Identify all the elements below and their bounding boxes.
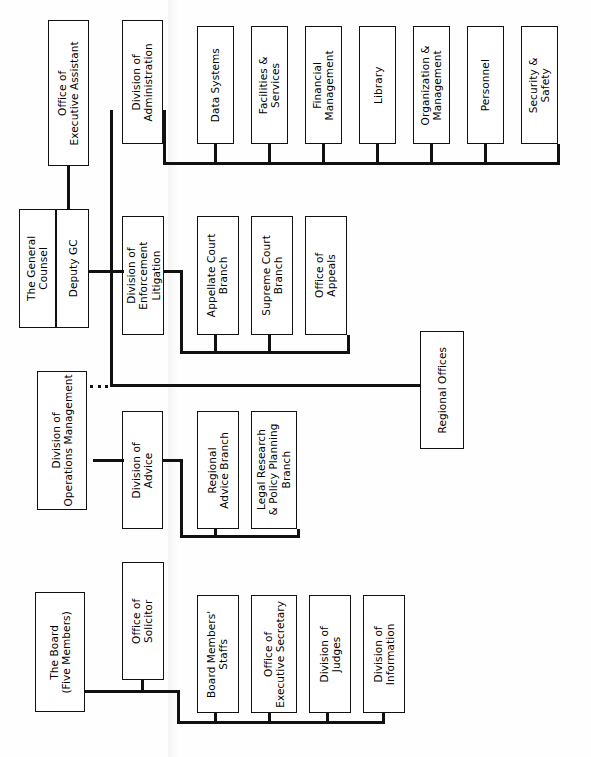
connector-gc-to-enforcement xyxy=(88,270,124,273)
connector-division-of-judges-stub xyxy=(326,713,329,724)
connector-facilities-services-stub xyxy=(268,144,271,163)
node-label: Office ofExecutive Assistant xyxy=(56,41,81,145)
node-the-board[interactable]: The Board(Five Members) xyxy=(35,592,85,712)
org-chart-canvas: Office ofExecutive Assistant Division of… xyxy=(0,0,591,757)
node-financial-management[interactable]: FinancialManagement xyxy=(305,26,342,144)
connector-board-step-down xyxy=(177,690,180,724)
connector-financial-management-stub xyxy=(322,144,325,163)
connector-regional-offices-line xyxy=(110,384,430,387)
connector-organization-management-stub xyxy=(430,144,433,163)
node-label: Data Systems xyxy=(209,48,221,122)
node-label: Office ofExecutive Secretary xyxy=(262,601,287,708)
node-label: Personnel xyxy=(479,59,491,111)
node-label: Board Members'Staffs xyxy=(206,610,231,697)
node-label: Supreme CourtBranch xyxy=(260,235,285,316)
connector-office-of-appeals-stub xyxy=(347,335,350,354)
node-label: Division ofAdministration xyxy=(130,43,155,121)
node-label: Appellate CourtBranch xyxy=(206,234,231,318)
node-label: FinancialManagement xyxy=(311,50,336,120)
connector-dotted-regional-link xyxy=(90,384,108,388)
connector-enforcement-bus-arm xyxy=(164,270,183,273)
node-division-of-information[interactable]: Division ofInformation xyxy=(363,595,405,713)
connector-office-executive-secretary-stub xyxy=(268,713,271,724)
connector-library-stub xyxy=(376,144,379,163)
node-label: The GeneralCounsel xyxy=(25,236,50,301)
node-office-of-solicitor[interactable]: Office ofSolicitor xyxy=(122,562,164,680)
node-division-of-advice[interactable]: Division ofAdvice xyxy=(122,411,163,529)
connector-advice-bus xyxy=(180,535,300,538)
node-division-of-administration[interactable]: Division ofAdministration xyxy=(122,20,163,144)
node-office-of-appeals[interactable]: Office ofAppeals xyxy=(305,216,347,335)
connector-enforcement-bus-riser xyxy=(180,270,183,354)
node-label: Division ofOperations Management xyxy=(50,374,75,506)
node-board-members-staffs[interactable]: Board Members'Staffs xyxy=(197,595,239,713)
connector-advice-bus-riser xyxy=(180,459,183,538)
node-label: Office ofSolicitor xyxy=(131,598,156,643)
node-label: Legal Research& Policy PlanningBranch xyxy=(255,424,292,516)
node-security-and-safety[interactable]: Security &Safety xyxy=(521,26,558,144)
connector-legal-research-stub xyxy=(297,529,300,538)
node-label: Division ofAdvice xyxy=(130,442,155,498)
page-fold-shadow xyxy=(168,0,178,757)
connector-operations-spine xyxy=(110,247,113,386)
connector-admin-to-gc-spine xyxy=(110,110,113,247)
connector-board-trunk xyxy=(85,690,180,693)
node-label: Facilities &Services xyxy=(257,56,282,114)
node-personnel[interactable]: Personnel xyxy=(467,26,504,144)
node-office-of-executive-assistant[interactable]: Office ofExecutive Assistant xyxy=(48,20,89,166)
connector-enforcement-bus xyxy=(180,351,350,354)
connector-advice-corner xyxy=(93,459,96,462)
node-facilities-and-services[interactable]: Facilities &Services xyxy=(251,26,288,144)
node-data-systems[interactable]: Data Systems xyxy=(197,26,234,144)
node-organization-and-management[interactable]: Organization &Management xyxy=(413,26,450,144)
node-division-of-judges[interactable]: Division ofJudges xyxy=(309,595,351,713)
node-office-of-executive-secretary[interactable]: Office ofExecutive Secretary xyxy=(251,595,297,713)
node-label: Office ofAppeals xyxy=(314,253,339,298)
node-label: Organization &Management xyxy=(419,45,444,125)
connector-appellate-court-stub xyxy=(214,335,217,354)
node-library[interactable]: Library xyxy=(359,26,396,144)
connector-board-children-bus xyxy=(177,721,385,724)
connector-security-safety-stub xyxy=(557,144,560,165)
connector-administration-bus-riser xyxy=(163,110,166,165)
connector-operations-to-advice xyxy=(93,459,124,462)
node-regional-offices[interactable]: Regional Offices xyxy=(420,331,464,449)
connector-supreme-court-stub xyxy=(268,335,271,354)
connector-regional-advice-stub xyxy=(214,529,217,538)
node-the-general-counsel[interactable]: The GeneralCounsel xyxy=(19,209,56,328)
node-legal-research-and-policy-planning-branch[interactable]: Legal Research& Policy PlanningBranch xyxy=(251,411,297,529)
node-label: Deputy GC xyxy=(66,240,78,298)
node-appellate-court-branch[interactable]: Appellate CourtBranch xyxy=(197,216,239,335)
node-division-of-enforcement-litigation[interactable]: Division ofEnforcementLitigation xyxy=(122,216,164,335)
connector-division-of-information-stub xyxy=(382,713,385,724)
node-label: Division ofJudges xyxy=(318,626,343,682)
connector-solicitor-stub xyxy=(141,680,144,692)
connector-data-systems-stub xyxy=(214,144,217,163)
node-supreme-court-branch[interactable]: Supreme CourtBranch xyxy=(251,216,293,335)
node-label: Regional Offices xyxy=(436,347,448,434)
node-label: Security &Safety xyxy=(527,57,552,113)
node-label: The Board(Five Members) xyxy=(48,611,73,693)
node-deputy-gc[interactable]: Deputy GC xyxy=(56,209,89,328)
connector-administration-bus xyxy=(163,162,560,165)
node-label: RegionalAdvice Branch xyxy=(206,432,231,509)
node-label: Division ofEnforcementLitigation xyxy=(124,241,161,309)
connector-advice-bus-arm xyxy=(163,459,183,462)
node-label: Division ofInformation xyxy=(372,623,397,685)
node-regional-advice-branch[interactable]: RegionalAdvice Branch xyxy=(197,411,239,529)
node-label: Library xyxy=(371,66,383,103)
connector-board-members-staffs-stub xyxy=(214,713,217,724)
node-division-of-operations-management[interactable]: Division ofOperations Management xyxy=(37,371,87,510)
connector-personnel-stub xyxy=(484,144,487,163)
